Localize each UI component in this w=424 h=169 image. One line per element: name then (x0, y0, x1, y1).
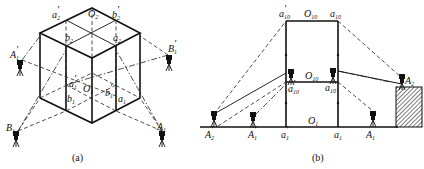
svg-text:a1: a1 (118, 93, 126, 105)
caption-b: (b) (312, 152, 324, 164)
svg-text:A1′: A1′ (9, 44, 19, 61)
svg-text:a10′: a10′ (279, 3, 290, 20)
svg-text:B1: B1 (6, 122, 15, 134)
svg-text:a1′: a1′ (69, 73, 77, 90)
building-block (396, 87, 422, 127)
svg-text:a2′: a2′ (52, 4, 60, 21)
svg-text:b2: b2 (65, 32, 73, 44)
theodolite-icon (159, 131, 165, 147)
svg-text:B1′: B1′ (168, 38, 177, 55)
svg-text:A1: A1 (156, 121, 166, 133)
svg-text:A1: A1 (365, 129, 375, 141)
theodolite-icon (17, 60, 23, 76)
theodolite-icon (166, 55, 172, 71)
svg-text:O10: O10 (305, 70, 318, 82)
svg-text:a10: a10 (330, 8, 341, 20)
svg-text:A2: A2 (404, 75, 414, 87)
diagram-canvas: a2′ O2 b2′ b2 a2 A1′ B1′ a1′ O1 b1′ b1 a… (0, 0, 424, 169)
theodolite-icon (370, 111, 376, 127)
caption-a: (a) (72, 152, 83, 164)
svg-text:b1′: b1′ (105, 82, 113, 99)
figure-b-labels: a10′ O10 a10 O10 a10′ a10 A2 O1 A2′ A1′ … (204, 3, 414, 164)
svg-text:O10: O10 (304, 8, 317, 20)
svg-text:b2′: b2′ (112, 4, 120, 21)
svg-text:a2: a2 (113, 32, 121, 44)
svg-text:O1: O1 (308, 115, 318, 127)
theodolite-icon (330, 68, 336, 84)
svg-text:b1: b1 (67, 93, 75, 105)
svg-text:a1: a1 (334, 129, 342, 141)
figure-a-cube (40, 8, 140, 123)
